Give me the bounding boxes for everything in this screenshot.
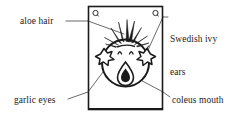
label-aloe-hair: aloe hair [20, 16, 53, 27]
garlic-bulb-corner-mark-left [93, 10, 99, 16]
corner-marks [93, 10, 158, 16]
label-swedish-ivy-line2: ears [170, 67, 217, 78]
label-garlic-eyes: garlic eyes [14, 95, 55, 106]
leader-swedish-ivy-tail [148, 17, 163, 50]
figure-canvas: aloe hair Swedish ivy ears garlic eyes c… [0, 0, 245, 126]
label-coleus-mouth: coleus mouth [172, 95, 223, 106]
garlic-bulb-corner-mark-right [153, 10, 159, 16]
leader-coleus-mouth [163, 92, 170, 97]
leader-garlic-eyes [68, 92, 88, 99]
label-swedish-ivy: Swedish ivy ears [170, 12, 217, 100]
label-swedish-ivy-line1: Swedish ivy [170, 34, 217, 45]
